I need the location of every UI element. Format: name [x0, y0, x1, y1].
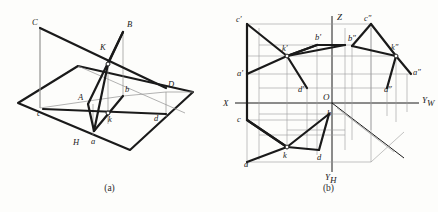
axis-label-Yw: YW — [422, 95, 436, 108]
axis-label-O: O — [323, 92, 330, 102]
caption-b: (b) — [219, 183, 438, 193]
axis-label-X: X — [222, 98, 229, 108]
label-C: C — [32, 17, 38, 27]
front-view-edges — [247, 24, 345, 120]
label-b: b — [125, 84, 129, 94]
label-c-h: c — [237, 114, 241, 124]
label-c: c — [37, 108, 41, 118]
figure-root: C B K A b D c k d H a (a) — [0, 0, 438, 212]
label-k-prime: k′ — [282, 43, 288, 53]
label-c-prime: c′ — [236, 14, 242, 24]
label-k: k — [108, 114, 112, 124]
panel-b-projection: X Z O YW YH c′ c″ b′ b″ k′ k″ a′ a″ d′ d… — [219, 0, 438, 212]
label-c-dprime: c″ — [364, 13, 372, 23]
panel-a-pictorial: C B K A b D c k d H a (a) — [0, 0, 219, 212]
label-A: A — [77, 92, 84, 102]
label-B: B — [127, 19, 132, 29]
axis-label-Z: Z — [337, 12, 343, 22]
label-a-dprime: a″ — [413, 67, 421, 77]
label-a: a — [91, 136, 95, 146]
label-k-dprime: k″ — [391, 42, 399, 52]
label-d-prime: d′ — [298, 84, 304, 94]
panel-a-drawing: C B K A b D c k d H a — [0, 0, 219, 212]
label-d-h: d — [317, 152, 322, 162]
label-k-h: k — [283, 150, 287, 160]
panel-b-drawing: X Z O YW YH c′ c″ b′ b″ k′ k″ a′ a″ d′ d… — [219, 0, 438, 212]
caption-a: (a) — [0, 183, 219, 193]
label-b-h: b — [327, 108, 331, 118]
label-b-dprime: b″ — [348, 33, 356, 43]
label-D: D — [167, 79, 175, 89]
label-a-h: a — [244, 159, 248, 169]
label-H: H — [72, 137, 80, 147]
label-a-prime: a′ — [237, 68, 243, 78]
label-K: K — [99, 42, 107, 52]
label-d-dprime: d″ — [384, 84, 392, 94]
label-b-prime: b′ — [315, 32, 321, 42]
thin-plane-outline — [40, 28, 193, 113]
